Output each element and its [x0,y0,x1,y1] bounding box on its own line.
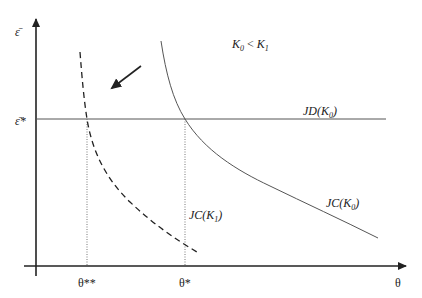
jd-k0-label: JD(K0) [303,104,337,120]
jc-k1-curve [80,52,197,252]
theta-star-label: θ* [179,276,191,290]
k1-subscript: 1 [265,44,269,53]
y-axis-label: ε̄ [15,25,23,39]
jd-k0-suffix: ) [332,104,337,118]
jc-k1-prefix: JC(K [189,208,215,222]
condition-label: K0 < K1 [231,37,269,53]
diagram-canvas: ε̄ ε̄* θ** θ* θ K0 < K1 JD(K0) JC(K0) JC… [0,0,422,298]
less-than: < [244,37,257,51]
jc-k0-label: JC(K0) [326,196,359,212]
jc-k1-suffix: ) [217,208,222,222]
jd-k0-prefix: JD(K [303,104,330,118]
x-axis-label: θ [395,276,401,290]
eps-star-label: ε̄* [15,114,26,128]
jc-k0-suffix: ) [354,196,359,210]
shift-arrow [112,66,141,88]
jc-k0-prefix: JC(K [326,196,352,210]
jc-k1-label: JC(K1) [189,208,222,224]
theta-double-star-label: θ** [78,276,96,290]
